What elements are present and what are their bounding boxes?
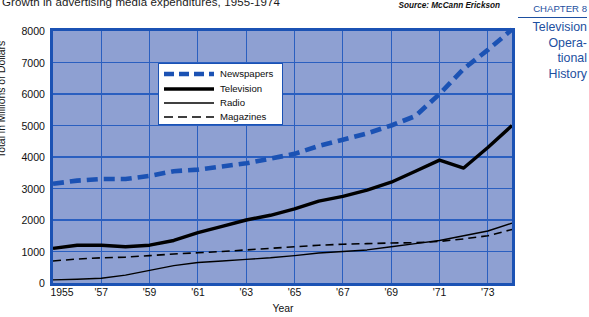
sidebar-title-lines: Television Opera- tional History xyxy=(518,20,587,82)
x-axis-tick-label: '59 xyxy=(143,287,157,298)
x-axis-tick-label: '71 xyxy=(433,287,447,298)
legend-label-newspapers: Newspapers xyxy=(220,68,273,79)
legend-item-television: Television xyxy=(159,81,284,96)
sidebar-title-line: Television xyxy=(518,20,587,36)
legend-swatch-newspapers xyxy=(163,68,215,80)
x-axis-title: Year xyxy=(273,303,294,314)
chart-page: Growth in advertising media expenditures… xyxy=(0,0,589,317)
y-axis-tick-label: 8000 xyxy=(0,25,45,37)
x-axis-tick-label: '73 xyxy=(481,287,495,298)
y-axis-tick-label: 1000 xyxy=(0,246,45,258)
sidebar-chapter-label: CHAPTER 8 xyxy=(533,3,587,14)
chapter-sidebar: CHAPTER 8 Television Opera- tional Histo… xyxy=(516,0,589,317)
x-axis-tick-label: '61 xyxy=(191,287,205,298)
chart-legend: Newspapers Television Radio Magazines xyxy=(158,63,283,125)
x-axis-tick-label: '69 xyxy=(384,287,398,298)
y-axis-tick-label: 3000 xyxy=(0,183,45,195)
sidebar-title-line: History xyxy=(518,67,587,83)
legend-item-newspapers: Newspapers xyxy=(159,66,284,81)
x-axis-tick-label: '63 xyxy=(239,287,253,298)
legend-item-radio: Radio xyxy=(159,95,284,110)
sidebar-title-line: Opera- xyxy=(518,36,587,52)
legend-swatch-television xyxy=(163,83,215,95)
plot-area: Newspapers Television Radio Magazines xyxy=(53,31,512,283)
x-axis-tick-label: 1955 xyxy=(50,287,73,298)
legend-label-television: Television xyxy=(220,83,262,94)
legend-item-magazines: Magazines xyxy=(159,109,284,124)
legend-label-radio: Radio xyxy=(220,97,245,108)
figure-caption: Growth in advertising media expenditures… xyxy=(2,0,280,8)
x-axis-tick-label: '57 xyxy=(95,287,109,298)
x-axis-tick-label: '65 xyxy=(288,287,302,298)
sidebar-title-line: tional xyxy=(518,51,587,67)
series-line-radio xyxy=(53,223,512,280)
legend-swatch-radio xyxy=(163,97,215,109)
x-axis-tick-label: '67 xyxy=(336,287,350,298)
y-axis-tick-label: 0 xyxy=(0,277,45,289)
sidebar-divider xyxy=(518,17,587,18)
legend-swatch-magazines xyxy=(163,111,215,123)
series-line-television xyxy=(53,126,512,249)
source-note: Source: McCann Erickson xyxy=(399,1,500,10)
y-axis-tick-label: 2000 xyxy=(0,214,45,226)
y-axis-title: Total in Millions of Dollars xyxy=(0,41,7,158)
legend-label-magazines: Magazines xyxy=(220,111,266,122)
